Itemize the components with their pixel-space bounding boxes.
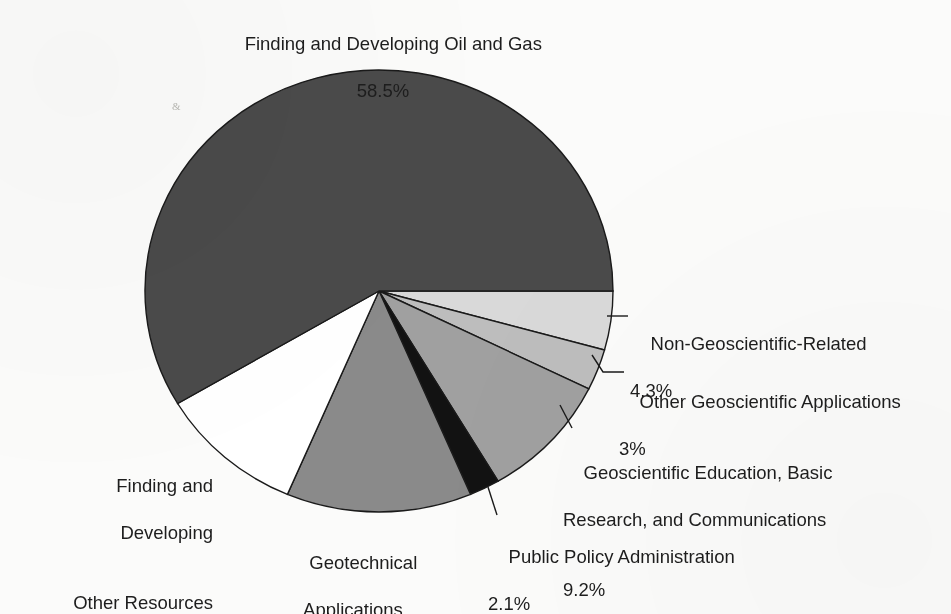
slice-value-oil-and-gas: 58.5% xyxy=(183,79,583,103)
slice-label-other-resources: Finding and Developing Other Resources 1… xyxy=(18,450,213,614)
slice-label-public-policy: Public Policy Administration 2.1% xyxy=(488,521,788,614)
slice-label-education-line1: Geoscientific Education, Basic xyxy=(584,462,833,483)
slice-label-geotechnical: Geotechnical Applications 12.8% xyxy=(253,527,453,614)
slice-label-other-resources-line3: Other Resources xyxy=(18,591,213,614)
slice-label-geotechnical-line1: Geotechnical xyxy=(309,552,417,573)
slice-label-other-resources-line1: Finding and xyxy=(116,475,213,496)
slice-label-public-policy-text: Public Policy Administration xyxy=(509,546,735,567)
slice-label-other-geoscientific-text: Other Geoscientific Applications xyxy=(640,391,901,412)
slice-label-oil-and-gas-text: Finding and Developing Oil and Gas xyxy=(245,33,542,54)
slice-value-public-policy: 2.1% xyxy=(488,592,788,614)
scan-artifact-speck: & xyxy=(172,100,181,112)
leader-line xyxy=(488,487,497,515)
pie-chart-figure: & Finding and Developing Oil and Gas 58.… xyxy=(0,0,951,614)
slice-label-geotechnical-line2: Applications xyxy=(253,598,453,614)
slice-label-oil-and-gas: Finding and Developing Oil and Gas 58.5% xyxy=(183,8,583,149)
slice-label-non-geoscientific-text: Non-Geoscientific-Related xyxy=(651,333,867,354)
slice-label-other-resources-line2: Developing xyxy=(18,521,213,545)
